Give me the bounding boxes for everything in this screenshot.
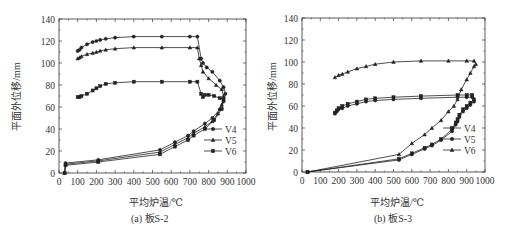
x-tick-label: 600 — [405, 176, 420, 186]
series-v5 — [306, 96, 476, 174]
x-tick-label: 100 — [71, 177, 86, 187]
series-v6 — [63, 80, 225, 174]
legend-label: V5 — [225, 136, 237, 146]
series-v4 — [306, 93, 476, 173]
x-tick-label: 400 — [368, 176, 383, 186]
legend-item-v4: V4 — [443, 124, 476, 134]
y-tick-label: 120 — [284, 36, 299, 46]
y-tick-label: 120 — [41, 37, 56, 47]
x-tick-label: 400 — [127, 177, 142, 187]
series-v4 — [63, 35, 227, 175]
y-tick-label: 20 — [46, 147, 56, 157]
x-tick-label: 1000 — [237, 177, 256, 187]
y-tick-label: 40 — [46, 125, 56, 135]
x-tick-label: 600 — [164, 177, 179, 187]
chart-caption: (a) 板S-2 — [131, 210, 169, 225]
x-axis-label: 平均炉温/℃ — [370, 194, 424, 209]
y-tick-label: 0 — [293, 168, 298, 178]
legend-label: V6 — [464, 146, 476, 156]
x-tick-label: 700 — [423, 176, 438, 186]
x-tick-label: 800 — [441, 176, 456, 186]
legend-item-v6: V6 — [443, 146, 476, 156]
legend-item-v6: V6 — [204, 147, 237, 157]
legend-label: V6 — [225, 147, 237, 157]
legend-label: V4 — [225, 125, 237, 135]
chart-caption: (b) 板S-3 — [374, 210, 412, 225]
x-tick-label: 500 — [145, 177, 160, 187]
x-tick-label: 0 — [57, 177, 62, 187]
y-tick-label: 140 — [284, 14, 299, 24]
y-axis-label: 平面外位移/mm — [264, 57, 279, 137]
legend-item-v5: V5 — [443, 135, 476, 145]
legend-label: V4 — [464, 124, 476, 134]
x-tick-label: 900 — [460, 176, 475, 186]
x-tick-label: 1000 — [476, 176, 495, 186]
y-tick-label: 60 — [289, 102, 299, 112]
y-tick-label: 60 — [46, 103, 56, 113]
y-tick-label: 80 — [46, 81, 56, 91]
chart-panel-a: 0100200300400500600700800900100002040608… — [0, 0, 260, 239]
x-tick-label: 300 — [350, 176, 365, 186]
x-tick-label: 200 — [89, 177, 104, 187]
y-axis-label: 平面外位移/mm — [8, 57, 23, 137]
x-tick-label: 0 — [300, 176, 305, 186]
x-axis-label: 平均炉温/℃ — [129, 194, 183, 209]
y-tick-label: 100 — [284, 58, 299, 68]
x-tick-label: 800 — [201, 177, 216, 187]
plot-frame — [59, 19, 246, 173]
y-tick-label: 0 — [50, 169, 55, 179]
y-tick-label: 80 — [289, 80, 299, 90]
x-tick-label: 200 — [331, 176, 346, 186]
x-tick-label: 900 — [220, 177, 235, 187]
y-tick-label: 140 — [41, 15, 56, 25]
y-tick-label: 100 — [41, 59, 56, 69]
y-tick-label: 20 — [289, 146, 299, 156]
legend-item-v4: V4 — [204, 125, 237, 135]
legend-label: V5 — [464, 135, 476, 145]
series-v5 — [63, 46, 226, 175]
y-tick-label: 40 — [289, 124, 299, 134]
series-v6 — [306, 59, 478, 173]
x-tick-label: 700 — [183, 177, 198, 187]
x-tick-label: 300 — [108, 177, 123, 187]
x-tick-label: 100 — [313, 176, 328, 186]
chart-panel-b: 0100200300400500600700800900100002040608… — [260, 0, 519, 239]
x-tick-label: 500 — [386, 176, 401, 186]
legend-item-v5: V5 — [204, 136, 237, 146]
